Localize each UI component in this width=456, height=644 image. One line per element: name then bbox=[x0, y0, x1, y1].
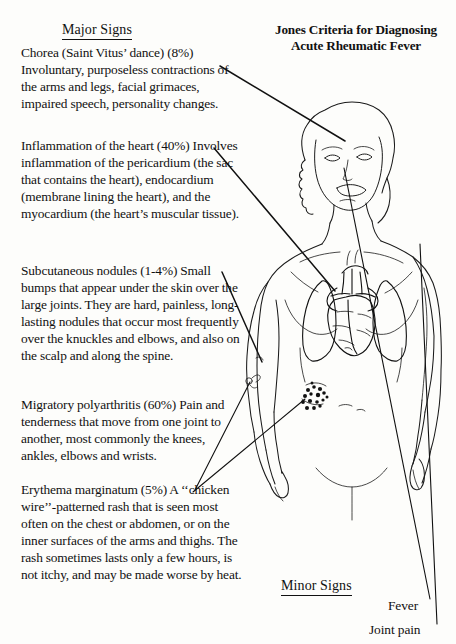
minor-sign-label-fever: Fever bbox=[388, 598, 418, 614]
leader-joint-pain bbox=[420, 244, 437, 624]
heading-underline bbox=[281, 595, 352, 596]
sign-description-erythema: A ‘‘chicken wire’’-patterned rash that i… bbox=[21, 482, 241, 582]
title-line-1: Jones Criteria for Diagnosing bbox=[275, 22, 437, 37]
sign-description-chorea: Involuntary, purposeless contractions of… bbox=[21, 62, 228, 111]
sign-title-chorea: Chorea (Saint Vitus’ dance) (8%) bbox=[21, 45, 193, 60]
title-line-2: Acute Rheumatic Fever bbox=[258, 38, 454, 54]
page-title: Jones Criteria for Diagnosing Acute Rheu… bbox=[258, 22, 454, 53]
sign-block-chorea: Chorea (Saint Vitus’ dance) (8%) Involun… bbox=[21, 44, 243, 112]
major-signs-heading: Major Signs bbox=[62, 22, 132, 40]
leader-fever bbox=[344, 168, 430, 599]
sign-description-nodules: Small bumps that appear under the skin o… bbox=[21, 263, 240, 363]
sign-title-carditis: Inflammation of the heart (40%) bbox=[21, 138, 190, 153]
sign-title-erythema: Erythema marginatum (5%) bbox=[21, 482, 167, 497]
sign-block-carditis: Inflammation of the heart (40%) Involves… bbox=[21, 137, 243, 222]
minor-sign-label-joint-pain: Joint pain bbox=[369, 622, 420, 638]
major-signs-heading-label: Major Signs bbox=[62, 22, 132, 37]
diagram-page: Jones Criteria for Diagnosing Acute Rheu… bbox=[0, 0, 456, 644]
sign-title-nodules: Subcutaneous nodules (1-4%) bbox=[21, 263, 177, 278]
minor-signs-heading-label: Minor Signs bbox=[281, 578, 352, 593]
heading-underline bbox=[62, 39, 132, 40]
sign-block-subcutaneous-nodules: Subcutaneous nodules (1-4%) Small bumps … bbox=[21, 262, 243, 365]
sign-block-erythema-marginatum: Erythema marginatum (5%) A ‘‘chicken wir… bbox=[21, 481, 243, 584]
minor-signs-heading: Minor Signs bbox=[281, 578, 352, 596]
sign-title-arthritis: Migratory polyarthritis (60%) bbox=[21, 397, 176, 412]
sign-block-migratory-polyarthritis: Migratory polyarthritis (60%) Pain and t… bbox=[21, 396, 243, 464]
